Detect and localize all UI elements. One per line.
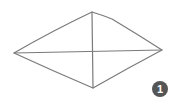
- badge-label: 1: [157, 84, 163, 95]
- horizontal-diagonal: [14, 50, 162, 53]
- vertical-diagonal: [92, 12, 93, 88]
- step-number-badge: 1: [152, 81, 168, 97]
